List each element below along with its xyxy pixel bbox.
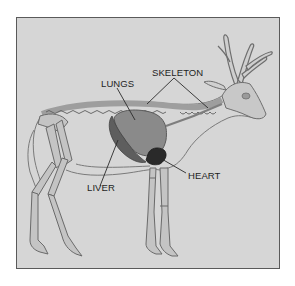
- label-lungs: LUNGS: [101, 79, 134, 89]
- front-legs: [146, 168, 178, 256]
- antlers: [218, 35, 272, 88]
- skeleton-leader-spine: [147, 78, 174, 104]
- skeleton-leader-neck: [174, 78, 208, 108]
- deer-illustration: [0, 0, 295, 286]
- label-heart: HEART: [188, 171, 221, 181]
- liver-leader: [100, 140, 118, 186]
- hind-legs: [30, 114, 82, 256]
- belly-line: [76, 164, 150, 167]
- label-liver: LIVER: [87, 183, 115, 193]
- label-skeleton: SKELETON: [152, 68, 203, 78]
